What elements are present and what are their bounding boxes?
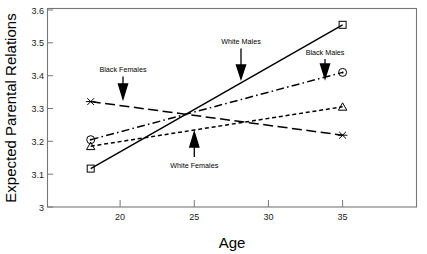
xtick-label-35: 35	[338, 212, 348, 222]
y-axis-title: Expected Parental Relations	[2, 13, 19, 202]
chart-container: 3 3.1 3.2 3.3 3.4 3.5 3.6 20 25 30 35 Ag…	[0, 0, 427, 254]
marker-asterisk-black-females-start	[86, 98, 96, 105]
x-axis-ticks	[120, 200, 343, 207]
xtick-label-20: 20	[115, 212, 125, 222]
marker-triangle-white-females-end	[338, 103, 346, 110]
annotation-black-females: Black Females	[99, 65, 147, 99]
line-chart: 3 3.1 3.2 3.3 3.4 3.5 3.6 20 25 30 35 Ag…	[0, 0, 427, 254]
ytick-label-3: 3	[39, 203, 44, 213]
ytick-label-3-5: 3.5	[31, 38, 44, 48]
annotation-label-white-males: White Males	[221, 37, 261, 46]
ytick-label-3-3: 3.3	[31, 104, 44, 114]
xtick-label-25: 25	[189, 212, 199, 222]
annotation-white-males: White Males	[221, 37, 261, 79]
ytick-label-3-2: 3.2	[31, 137, 44, 147]
ytick-label-3-1: 3.1	[31, 170, 44, 180]
xtick-label-30: 30	[263, 212, 273, 222]
annotation-label-white-females: White Females	[170, 161, 218, 170]
series-black-females	[86, 98, 348, 138]
annotation-label-black-females: Black Females	[99, 65, 147, 74]
ytick-label-3-4: 3.4	[31, 71, 44, 81]
annotation-label-black-males: Black Males	[306, 48, 345, 57]
annotation-white-females: White Females	[170, 132, 218, 170]
y-axis-ticks	[48, 10, 54, 207]
marker-asterisk-black-females-end	[338, 132, 348, 139]
ytick-label-3-6: 3.6	[31, 6, 44, 16]
x-axis-title: Age	[219, 234, 246, 251]
series-white-males	[87, 21, 346, 172]
series-white-females	[87, 103, 347, 150]
